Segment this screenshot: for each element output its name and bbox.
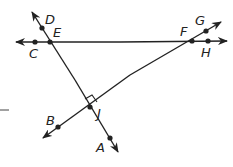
point-J xyxy=(87,104,92,109)
label-H: H xyxy=(201,45,211,60)
point-A xyxy=(107,135,112,140)
point-H xyxy=(205,38,210,43)
point-E xyxy=(47,39,52,44)
point-G xyxy=(203,28,208,33)
geometry-diagram: C E D F G H J B A xyxy=(0,0,233,167)
point-C xyxy=(32,39,37,44)
label-E: E xyxy=(53,25,62,40)
point-B xyxy=(55,124,60,129)
label-C: C xyxy=(29,46,39,61)
label-B: B xyxy=(46,113,55,128)
labels: C E D F G H J B A xyxy=(29,12,211,155)
point-D xyxy=(39,25,44,30)
label-G: G xyxy=(195,13,205,28)
label-F: F xyxy=(180,24,188,39)
label-D: D xyxy=(45,12,55,27)
diagram-canvas: C E D F G H J B A xyxy=(0,0,233,167)
line-DA xyxy=(32,12,118,152)
label-A: A xyxy=(95,140,105,155)
line-BG xyxy=(43,22,221,138)
point-F xyxy=(189,38,194,43)
